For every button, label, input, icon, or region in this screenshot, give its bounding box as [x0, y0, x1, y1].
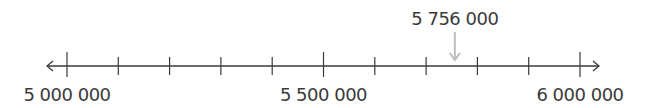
- tick-marks: [67, 52, 580, 77]
- tick-label: 5 000 000: [23, 84, 110, 105]
- tick-label: 6 000 000: [536, 84, 623, 105]
- tick-label: 5 500 000: [280, 84, 367, 105]
- value-marker-arrow-icon: [450, 32, 460, 60]
- marker-label: 5 756 000: [411, 8, 498, 29]
